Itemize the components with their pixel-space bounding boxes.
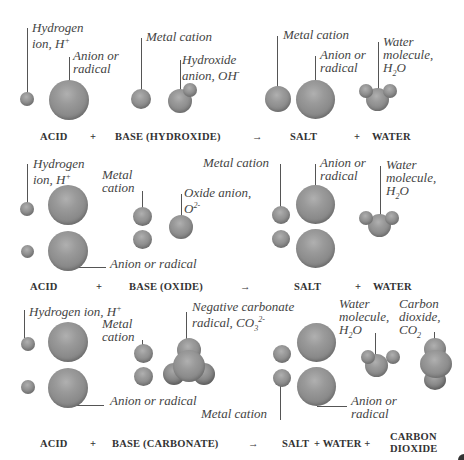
label-water-molecule: Water molecule, H2O [339, 297, 389, 342]
salt-anion-sphere [297, 323, 336, 362]
co2-carbon-sphere [420, 350, 452, 378]
eq-carbon-dioxide: CARBON DIOXIDE [390, 431, 438, 455]
eq-salt: SALT [282, 438, 309, 449]
label-salt-anion: Anion or radical [320, 156, 366, 182]
salt-anion-sphere [296, 185, 335, 224]
salt-metal-sphere [272, 206, 290, 224]
hydroxide-hydrogen-sphere [183, 83, 197, 97]
label-metal-cation: Metal cation [102, 317, 135, 343]
metal-cation-sphere [131, 89, 151, 109]
eq-plus: + [96, 281, 102, 292]
leader-line [380, 166, 381, 216]
salt-anion-sphere [296, 229, 335, 268]
leader-line [378, 42, 379, 92]
leader-line [24, 310, 25, 338]
eq-salt: SALT [294, 281, 321, 292]
eq-plus-water-plus: + WATER + [314, 438, 371, 449]
label-salt-metal-cation: Metal cation [283, 28, 349, 41]
hydrogen-ion-sphere [21, 337, 35, 351]
salt-anion-sphere [296, 80, 335, 119]
eq-plus: + [90, 131, 96, 142]
eq-plus: + [90, 438, 96, 449]
metal-cation-sphere [133, 230, 152, 249]
eq-acid: ACID [30, 281, 58, 292]
label-salt-metal-cation: Metal cation [201, 407, 267, 420]
anion-sphere [48, 231, 88, 271]
salt-anion-sphere [297, 367, 336, 406]
salt-metal-sphere [273, 369, 291, 387]
water-hydrogen-sphere [361, 350, 375, 364]
salt-metal-sphere [272, 230, 290, 248]
eq-acid: ACID [40, 438, 68, 449]
label-hydroxide-anion: Hydroxide anion, OH- [182, 53, 240, 82]
label-salt-anion: Anion or radical [351, 394, 397, 420]
metal-cation-sphere [133, 207, 152, 226]
eq-arrow: → [248, 438, 259, 449]
label-salt-anion: Anion or radical [320, 48, 366, 74]
water-hydrogen-sphere [359, 84, 373, 98]
metal-cation-sphere [134, 344, 153, 363]
water-hydrogen-sphere [383, 84, 397, 98]
eq-water: WATER [372, 131, 411, 142]
page-corner-decoration [458, 454, 464, 460]
eq-base: BASE (OXIDE) [129, 281, 203, 292]
eq-salt: SALT [290, 131, 317, 142]
eq-acid: ACID [40, 131, 68, 142]
label-metal-cation: Metal cation [102, 168, 135, 194]
metal-cation-sphere [134, 367, 153, 386]
leader-line [315, 56, 316, 82]
eq-arrow: → [252, 131, 263, 142]
eq-base: BASE (CARBONATE) [112, 438, 219, 449]
water-hydrogen-sphere [359, 211, 373, 225]
label-water-molecule: Water molecule, H2O [383, 35, 433, 80]
label-salt-metal-cation: Metal cation [203, 156, 269, 169]
hydrogen-ion-sphere [20, 92, 34, 106]
eq-water: WATER [373, 281, 412, 292]
leader-line [317, 406, 347, 407]
anion-sphere [48, 322, 88, 362]
eq-plus: + [355, 281, 361, 292]
eq-base: BASE (HYDROXIDE) [115, 131, 221, 142]
salt-metal-sphere [273, 345, 291, 363]
salt-metal-sphere [265, 86, 291, 112]
label-anion: Anion or radical [73, 49, 119, 75]
anion-sphere [49, 80, 89, 120]
hydrogen-ion-sphere [21, 380, 35, 394]
anion-sphere [48, 185, 88, 225]
leader-line [375, 333, 376, 355]
label-metal-cation: Metal cation [146, 30, 212, 43]
oxide-anion-sphere [169, 215, 193, 239]
eq-arrow: → [240, 281, 251, 292]
eq-plus: + [354, 131, 360, 142]
leader-line [27, 28, 28, 98]
label-carbonate-radical: Negative carbonate radical, CO32- [192, 300, 294, 335]
hydrogen-ion-sphere [20, 202, 34, 216]
water-hydrogen-sphere [385, 211, 399, 225]
label-anion-radical: Anion or radical [110, 257, 197, 270]
label-water-molecule: Water molecule, H2O [386, 158, 436, 203]
anion-sphere [48, 368, 88, 408]
label-hydrogen-ion: Hydrogen ion, H+ [33, 157, 85, 186]
label-hydrogen-ion: Hydrogen ion, H+ [32, 21, 84, 50]
carbonate-carbon-sphere [173, 350, 205, 382]
label-oxide-anion: Oxide anion, O2- [184, 186, 251, 215]
label-anion-radical: Anion or radical [110, 394, 197, 407]
leader-line [280, 382, 281, 420]
hydrogen-ion-sphere [21, 245, 34, 258]
water-hydrogen-sphere [386, 350, 400, 364]
